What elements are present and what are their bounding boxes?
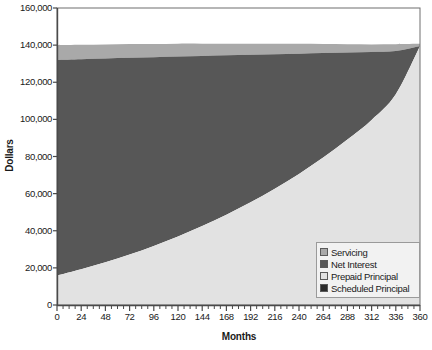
legend-swatch-net-interest	[320, 260, 328, 268]
legend-label-net-interest: Net Interest	[331, 259, 377, 270]
legend-item-prepaid-principal: Prepaid Principal	[320, 270, 415, 282]
legend-label-prepaid-principal: Prepaid Principal	[331, 271, 398, 282]
legend-item-net-interest: Net Interest	[320, 258, 415, 270]
legend-swatch-scheduled-principal	[320, 284, 328, 292]
x-axis-title: Months	[57, 331, 421, 342]
area-chart: 020,00040,00060,00080,000100,000120,0001…	[0, 0, 432, 350]
x-tick-label: 360	[400, 312, 432, 322]
legend-swatch-servicing	[320, 248, 328, 256]
legend-label-servicing: Servicing	[331, 247, 367, 258]
legend-swatch-prepaid-principal	[320, 272, 328, 280]
legend-item-servicing: Servicing	[320, 246, 415, 258]
chart-legend: Servicing Net Interest Prepaid Principal…	[316, 242, 420, 298]
legend-item-scheduled-principal: Scheduled Principal	[320, 282, 415, 294]
legend-label-scheduled-principal: Scheduled Principal	[331, 283, 409, 294]
y-axis-title: Dollars	[4, 126, 15, 186]
